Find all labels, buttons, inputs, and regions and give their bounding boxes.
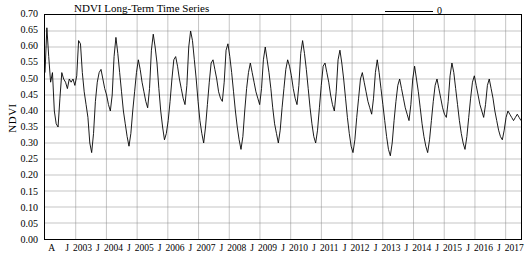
x-tick-label: J bbox=[466, 243, 470, 253]
x-tick-label: 2006 bbox=[166, 243, 185, 253]
x-tick-label: J bbox=[219, 243, 223, 253]
x-tick-label: J bbox=[343, 243, 347, 253]
x-tick-label: 2007 bbox=[196, 243, 215, 253]
x-tick-label: J bbox=[250, 243, 254, 253]
x-tick-label: J bbox=[435, 243, 439, 253]
x-tick-label: 2004 bbox=[104, 243, 123, 253]
x-tick-label: 2014 bbox=[412, 243, 431, 253]
y-tick-label: 0.30 bbox=[4, 138, 38, 148]
x-tick-label: J bbox=[189, 243, 193, 253]
x-tick-label: J bbox=[96, 243, 100, 253]
y-tick-label: 0.25 bbox=[4, 154, 38, 164]
x-tick-label: J bbox=[127, 243, 131, 253]
x-tick-label: J bbox=[65, 243, 69, 253]
y-tick-label: 0.65 bbox=[4, 25, 38, 35]
x-tick-label: J bbox=[497, 243, 501, 253]
x-tick-label: 2010 bbox=[289, 243, 308, 253]
plot-area bbox=[44, 14, 522, 240]
x-tick-label: J bbox=[374, 243, 378, 253]
plot-svg bbox=[45, 15, 521, 239]
x-tick-label: 2003 bbox=[73, 243, 92, 253]
y-axis-ticks: 0.700.650.600.550.500.450.400.350.300.25… bbox=[4, 0, 38, 276]
chart-title: NDVI Long-Term Time Series bbox=[74, 2, 209, 14]
x-tick-label: J bbox=[312, 243, 316, 253]
y-tick-label: 0.20 bbox=[4, 170, 38, 180]
legend-line-icon bbox=[385, 11, 433, 12]
chart-root: NDVI Long-Term Time Series 0 NDVI 0.700.… bbox=[0, 0, 530, 276]
y-tick-label: 0.35 bbox=[4, 122, 38, 132]
x-tick-label: 2017 bbox=[505, 243, 524, 253]
y-tick-label: 0.70 bbox=[4, 9, 38, 19]
y-tick-label: 0.45 bbox=[4, 90, 38, 100]
y-tick-label: 0.00 bbox=[4, 235, 38, 245]
x-tick-label: 2016 bbox=[474, 243, 493, 253]
x-tick-label: J bbox=[404, 243, 408, 253]
y-tick-label: 0.15 bbox=[4, 187, 38, 197]
y-tick-label: 0.10 bbox=[4, 203, 38, 213]
x-axis-ticks: AJ2003J2004J2005J2006J2007J2008J2009J201… bbox=[44, 243, 524, 259]
y-tick-label: 0.05 bbox=[4, 219, 38, 229]
y-tick-label: 0.40 bbox=[4, 106, 38, 116]
x-tick-label: 2013 bbox=[381, 243, 400, 253]
x-tick-label: 2005 bbox=[135, 243, 154, 253]
y-tick-label: 0.55 bbox=[4, 57, 38, 67]
x-tick-label: A bbox=[48, 243, 55, 253]
y-tick-label: 0.60 bbox=[4, 41, 38, 51]
x-tick-label: 2015 bbox=[443, 243, 462, 253]
x-tick-label: 2008 bbox=[227, 243, 246, 253]
x-tick-label: 2011 bbox=[320, 243, 339, 253]
x-tick-label: J bbox=[281, 243, 285, 253]
x-tick-label: 2009 bbox=[258, 243, 277, 253]
x-tick-label: J bbox=[158, 243, 162, 253]
y-tick-label: 0.50 bbox=[4, 74, 38, 84]
horizontal-gridlines bbox=[45, 31, 521, 223]
x-tick-label: 2012 bbox=[351, 243, 370, 253]
